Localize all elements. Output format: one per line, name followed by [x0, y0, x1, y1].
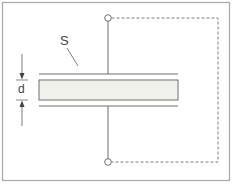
- top-terminal-icon: [105, 15, 112, 22]
- bottom-terminal-icon: [105, 159, 112, 166]
- dielectric-slab: [39, 80, 178, 100]
- thickness-label: d: [18, 83, 25, 95]
- area-label: S: [60, 34, 69, 47]
- capacitor-diagram: [0, 0, 232, 186]
